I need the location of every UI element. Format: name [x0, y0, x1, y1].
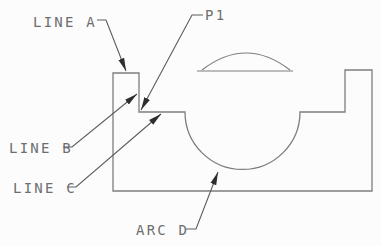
p1-label: P1 — [205, 7, 226, 23]
sheet-background — [0, 0, 381, 246]
cad-drawing-sheet: LINE A P1 LINE B LINE C ARC D — [0, 0, 381, 246]
drawing-canvas: LINE A P1 LINE B LINE C ARC D — [0, 0, 381, 246]
line-c-label: LINE C — [13, 180, 77, 196]
arc-d-label: ARC D — [136, 222, 189, 238]
line-a-label: LINE A — [33, 14, 97, 30]
line-b-label: LINE B — [9, 140, 73, 156]
